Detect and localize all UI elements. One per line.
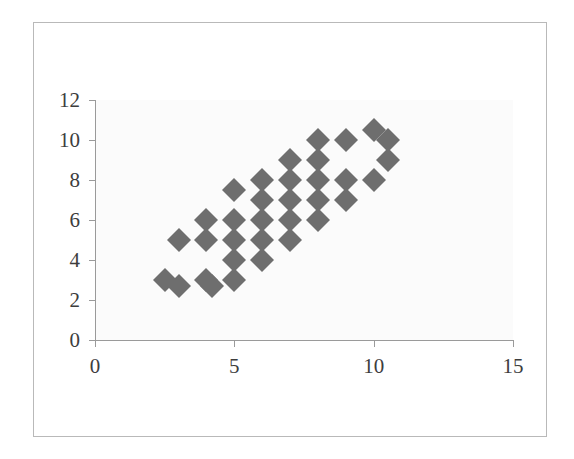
y-tick-label: 4 <box>42 250 80 271</box>
x-tick <box>234 341 235 347</box>
y-tick-label: 12 <box>42 90 80 111</box>
y-tick-label: 2 <box>42 290 80 311</box>
y-tick <box>89 260 95 261</box>
y-tick-label: 8 <box>42 170 80 191</box>
y-tick <box>89 140 95 141</box>
x-tick <box>513 341 514 347</box>
x-tick <box>95 341 96 347</box>
y-axis-line <box>95 100 96 341</box>
y-tick-label: 6 <box>42 210 80 231</box>
y-tick <box>89 100 95 101</box>
plot-area <box>95 100 513 340</box>
y-tick-label: 0 <box>42 330 80 351</box>
y-tick <box>89 300 95 301</box>
x-tick-label: 15 <box>483 356 543 377</box>
y-tick <box>89 180 95 181</box>
x-axis-line <box>95 340 514 341</box>
y-tick <box>89 220 95 221</box>
x-tick <box>374 341 375 347</box>
x-tick-label: 10 <box>344 356 404 377</box>
y-tick-label: 10 <box>42 130 80 151</box>
x-tick-label: 5 <box>204 356 264 377</box>
x-tick-label: 0 <box>65 356 125 377</box>
chart-container: 024681012 051015 <box>0 0 574 459</box>
